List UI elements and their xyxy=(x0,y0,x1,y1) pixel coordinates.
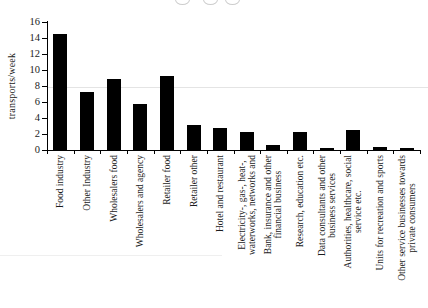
cutoff-character-fragment xyxy=(225,0,240,5)
bar xyxy=(400,148,414,150)
x-tick-mark xyxy=(260,151,261,154)
x-category-label: Data consultants and other business serv… xyxy=(317,155,337,256)
x-tick-mark xyxy=(367,151,368,154)
bar xyxy=(160,76,174,150)
y-tick-mark xyxy=(42,22,47,23)
x-category-label: Retailer food xyxy=(162,155,172,205)
x-tick-mark xyxy=(313,151,314,154)
x-category-label: Electricity-, gas-, heat-, waterworks, n… xyxy=(237,155,257,255)
y-tick-label: 16 xyxy=(12,16,40,28)
bar xyxy=(133,104,147,150)
bar xyxy=(320,148,334,150)
bar xyxy=(293,132,307,150)
y-tick-mark xyxy=(42,134,47,135)
y-tick-label: 14 xyxy=(12,32,40,44)
y-tick-mark xyxy=(42,102,47,103)
x-category-label: Wholesalers food xyxy=(109,155,119,222)
x-tick-mark xyxy=(154,151,155,154)
x-category-label: Retailer other xyxy=(189,155,199,207)
x-tick-mark xyxy=(420,151,421,154)
y-tick-label: 6 xyxy=(12,96,40,108)
bar xyxy=(107,79,121,150)
y-tick-label: 4 xyxy=(12,112,40,124)
x-tick-mark xyxy=(340,151,341,154)
bar xyxy=(240,132,254,150)
bar xyxy=(373,147,387,150)
x-category-label: Wholesalers and agency xyxy=(135,155,145,247)
x-tick-mark xyxy=(100,151,101,154)
bar xyxy=(80,92,94,150)
x-tick-mark xyxy=(47,151,48,154)
scan-artifact-line xyxy=(47,87,428,88)
x-tick-mark xyxy=(287,151,288,154)
y-tick-label: 0 xyxy=(12,144,40,156)
x-tick-mark xyxy=(207,151,208,154)
cutoff-character-fragment xyxy=(203,0,218,5)
y-tick-label: 12 xyxy=(12,48,40,60)
cutoff-character-fragment xyxy=(175,0,190,5)
x-category-label: Research, education etc. xyxy=(295,155,305,247)
bar xyxy=(53,34,67,150)
y-tick-mark xyxy=(42,118,47,119)
bar xyxy=(187,125,201,150)
bar xyxy=(266,145,280,150)
x-category-label: Authorities, healthcare, social service … xyxy=(343,155,363,268)
y-tick-label: 8 xyxy=(12,80,40,92)
cutoff-title-fragments xyxy=(170,0,250,5)
bar xyxy=(346,130,360,150)
y-tick-label: 10 xyxy=(12,64,40,76)
x-tick-mark xyxy=(74,151,75,154)
x-tick-mark xyxy=(234,151,235,154)
x-tick-mark xyxy=(393,151,394,154)
x-category-label: Units for recreation and sports xyxy=(375,155,385,271)
x-category-label: Hotel and restaurant xyxy=(215,155,225,232)
y-tick-mark xyxy=(42,38,47,39)
y-axis-line xyxy=(47,21,48,151)
y-tick-mark xyxy=(42,70,47,71)
y-tick-mark xyxy=(42,86,47,87)
y-tick-mark xyxy=(42,54,47,55)
bar xyxy=(213,128,227,150)
scan-artifact-line xyxy=(0,255,222,256)
x-category-label: Bank, insurance and other financial busi… xyxy=(263,155,283,254)
x-tick-mark xyxy=(127,151,128,154)
x-category-label: Other service businesses towards private… xyxy=(397,155,417,281)
bar-chart-figure: transports/week 0246810121416Food indust… xyxy=(0,0,428,308)
x-tick-mark xyxy=(180,151,181,154)
x-category-label: Other Industry xyxy=(82,155,92,211)
x-category-label: Food industry xyxy=(55,155,65,208)
y-tick-label: 2 xyxy=(12,128,40,140)
